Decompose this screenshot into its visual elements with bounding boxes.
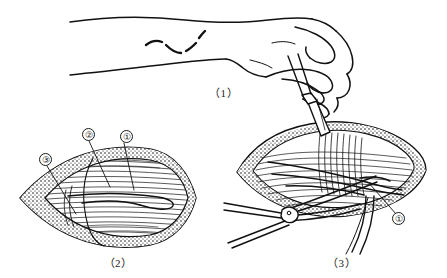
panel-1-forearm (70, 17, 336, 77)
panel-1-hand (250, 27, 353, 118)
figure-root: ① ② ③ ① （1） （2） （3） (0, 0, 447, 278)
label-panel3-1: ① (392, 212, 405, 225)
scissors-pivot-screw (287, 211, 291, 215)
caption-panel-1: （1） (0, 84, 447, 100)
label-panel2-1: ① (120, 130, 133, 143)
label-panel2-2: ② (82, 128, 95, 141)
caption-panel-2: （2） (0, 254, 236, 270)
caption-panel-3: （3） (236, 254, 447, 270)
surgical-illustration (0, 0, 447, 278)
label-panel2-3: ③ (39, 153, 52, 166)
incision-marking (146, 31, 205, 53)
